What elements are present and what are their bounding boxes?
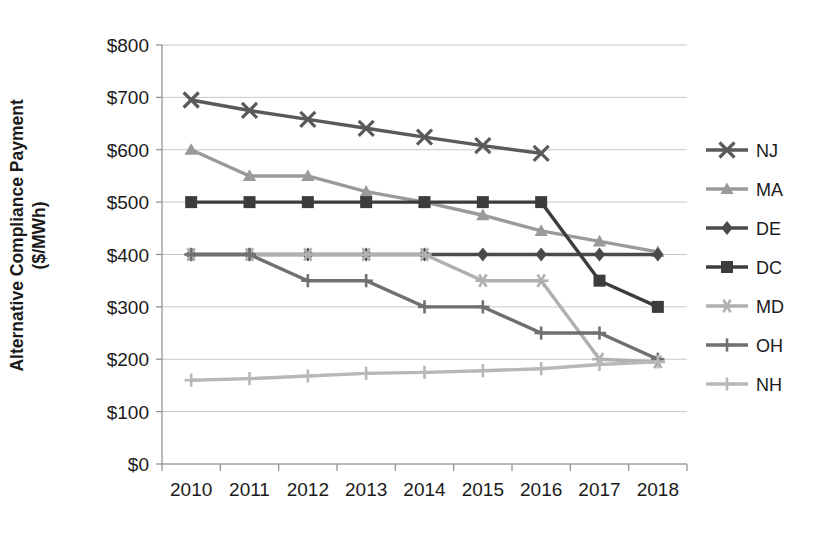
data-point-marker-diamond	[721, 221, 732, 235]
data-point-marker-square	[477, 196, 489, 208]
data-point-marker-square	[721, 261, 733, 273]
chart-container: Alternative Compliance Payment ($/MWh) $…	[0, 0, 821, 536]
legend-label-MD: MD	[756, 297, 784, 317]
legend-label-NJ: NJ	[756, 141, 778, 161]
x-tick-label: 2016	[520, 479, 562, 500]
data-point-marker-square	[302, 196, 314, 208]
data-point-marker-square	[185, 196, 197, 208]
y-tick-label: $400	[107, 245, 149, 266]
data-point-marker-plus	[593, 326, 606, 339]
legend-item-OH[interactable]: OH	[706, 336, 783, 356]
x-tick-label: 2014	[403, 479, 446, 500]
legend-item-NJ[interactable]: NJ	[706, 141, 778, 161]
x-tick-label: 2018	[637, 479, 679, 500]
data-point-marker-square	[594, 275, 606, 287]
legend-label-MA: MA	[756, 180, 783, 200]
x-tick-label: 2015	[462, 479, 504, 500]
legend-item-MA[interactable]: MA	[706, 180, 783, 200]
legend-label-DE: DE	[756, 219, 781, 239]
data-point-marker-square	[535, 196, 547, 208]
data-point-marker-plus	[185, 248, 198, 261]
data-point-marker-plus	[720, 377, 733, 390]
data-point-marker-asterisk	[476, 274, 490, 286]
x-tick-label: 2017	[578, 479, 620, 500]
data-point-marker-plus	[243, 248, 256, 261]
data-point-marker-square	[652, 301, 664, 313]
y-tick-label: $700	[107, 87, 149, 108]
data-point-marker-triangle	[185, 143, 198, 155]
data-point-marker-plus	[243, 372, 256, 385]
y-tick-label: $600	[107, 140, 149, 161]
data-point-marker-plus	[476, 300, 489, 313]
data-point-marker-asterisk	[720, 300, 734, 312]
x-tick-label: 2011	[229, 479, 270, 500]
y-tick-labels-group: $0$100$200$300$400$500$600$700$800	[107, 35, 149, 475]
data-point-marker-plus	[535, 362, 548, 375]
x-tick-label: 2012	[287, 479, 329, 500]
data-series-group	[184, 92, 665, 386]
y-tick-label: $0	[128, 454, 149, 475]
series-NJ	[184, 92, 549, 160]
line-chart-plot: $0$100$200$300$400$500$600$700$800 20102…	[0, 0, 821, 536]
legend-item-NH[interactable]: NH	[706, 375, 782, 395]
data-point-marker-plus	[476, 364, 489, 377]
y-tick-label: $800	[107, 35, 149, 56]
legend-label-NH: NH	[756, 375, 782, 395]
data-point-marker-plus	[185, 374, 198, 387]
data-point-marker-square	[244, 196, 256, 208]
data-point-marker-diamond	[594, 248, 605, 262]
y-tick-label: $100	[107, 402, 149, 423]
legend-item-MD[interactable]: MD	[706, 297, 784, 317]
chart-legend: NJMADEDCMDOHNH	[706, 141, 784, 395]
legend-item-DC[interactable]: DC	[706, 258, 782, 278]
x-tick-label: 2010	[170, 479, 212, 500]
legend-label-OH: OH	[756, 336, 783, 356]
y-tick-label: $300	[107, 297, 149, 318]
y-tick-label: $200	[107, 349, 149, 370]
x-tick-labels-group: 201020112012201320142015201620172018	[170, 479, 679, 500]
data-point-marker-plus	[720, 338, 733, 351]
data-point-marker-plus	[301, 274, 314, 287]
data-point-marker-square	[419, 196, 431, 208]
data-point-marker-plus	[301, 369, 314, 382]
legend-item-DE[interactable]: DE	[706, 219, 781, 239]
x-tick-label: 2013	[345, 479, 387, 500]
legend-label-DC: DC	[756, 258, 782, 278]
data-point-marker-plus	[360, 274, 373, 287]
data-point-marker-diamond	[535, 248, 546, 262]
data-point-marker-plus	[360, 367, 373, 380]
y-tick-label: $500	[107, 192, 149, 213]
data-point-marker-plus	[418, 366, 431, 379]
data-point-marker-plus	[418, 300, 431, 313]
data-point-marker-diamond	[477, 248, 488, 262]
data-point-marker-square	[360, 196, 372, 208]
data-point-marker-plus	[535, 326, 548, 339]
